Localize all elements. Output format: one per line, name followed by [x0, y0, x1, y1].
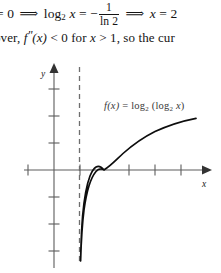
result-value: 2	[171, 6, 178, 21]
log-operator-1: log	[44, 6, 62, 21]
label-close-paren: )	[181, 100, 185, 111]
math-line-2: over, f''(x) < 0 for x > 1, so the cur	[0, 28, 175, 46]
x-axis-arrowhead	[202, 166, 212, 175]
x-axis-label: x	[201, 179, 207, 189]
minus-sign: −	[90, 6, 98, 21]
label-log-inner: log	[155, 100, 169, 111]
log-log-curve	[81, 118, 196, 261]
ln-argument: 2	[112, 15, 118, 28]
curve-equation-label: f(x) = log2 (log2 x)	[104, 100, 185, 112]
zero-value: 0	[61, 30, 68, 45]
label-argument: (x)	[107, 100, 119, 111]
equals-sign-2: =	[79, 6, 87, 21]
equals-sign: =	[0, 6, 4, 21]
fraction-one-over-ln2: 1ln 2	[99, 2, 119, 28]
log-base-1: 2	[61, 12, 66, 22]
implies-arrow-2: ⟹	[124, 6, 147, 21]
label-log-outer-base: 2	[145, 105, 149, 112]
equals-sign-3: =	[159, 6, 167, 21]
variable-x-2: x	[150, 6, 156, 21]
one-value: 1,	[110, 30, 120, 45]
ln-operator: ln	[100, 15, 109, 28]
function-argument: (x)	[32, 30, 47, 45]
line2-tail-text: so the cur	[123, 30, 175, 45]
fraction-denominator: ln 2	[99, 16, 119, 28]
variable-x-3: x	[90, 30, 96, 45]
fraction-numerator: 1	[99, 2, 119, 14]
greater-than-sign: >	[99, 30, 106, 45]
label-log-inner-base: 2	[169, 105, 173, 112]
label-equals: =	[122, 100, 128, 111]
variable-x-1: x	[69, 6, 75, 21]
y-axis-arrowhead	[50, 63, 59, 73]
graph-svg: y x	[0, 56, 221, 273]
for-keyword: for	[71, 30, 86, 45]
label-log-outer: log	[131, 100, 145, 111]
number-zero: 0	[7, 6, 14, 21]
implies-arrow-1: ⟹	[18, 6, 41, 21]
y-axis-label: y	[40, 69, 46, 79]
math-text-block: = 0 ⟹ log2 x = −1ln 2 ⟹ x = 2 over, f''(…	[0, 0, 221, 56]
graph-figure: y x f(x) = log2 (log2 x)	[0, 56, 221, 273]
less-than-sign: <	[50, 30, 57, 45]
line2-lead-text: over,	[0, 30, 20, 45]
math-line-1: = 0 ⟹ log2 x = −1ln 2 ⟹ x = 2	[0, 2, 177, 28]
